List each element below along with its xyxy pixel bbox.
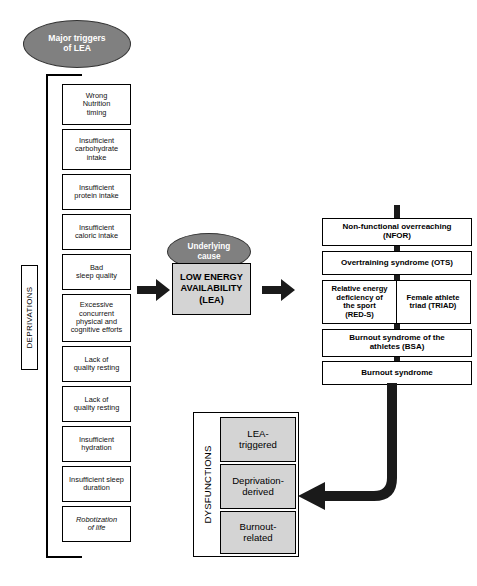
dysfunctions-group-label: DYSFUNCTIONS <box>196 415 218 554</box>
trigger-box-2: Insufficient carbohydrate intake <box>62 129 131 170</box>
low-energy-availability-box: LOW ENERGY AVAILABILITY (LEA) <box>172 263 251 315</box>
dysfunction-box-burnout: Burnout syndrome <box>322 361 472 385</box>
dysfunction-box-bsa: Burnout syndrome of the athletes (BSA) <box>322 329 472 357</box>
dysfunction-category-lea-triggered: LEA- triggered <box>220 417 296 462</box>
dysfunction-box-split-reds-triad: Relative energy deficiency of the sport … <box>322 280 472 324</box>
deprivations-group-label: DEPRIVATIONS <box>21 265 38 370</box>
trigger-box-11: Robotization of life <box>62 506 131 542</box>
trigger-box-4: Insufficient caloric intake <box>62 214 131 250</box>
trigger-box-3: Insufficient protein intake <box>62 174 131 210</box>
dysfunctions-label-text: DYSFUNCTIONS <box>202 445 213 523</box>
triggers-bracket-top <box>46 74 82 76</box>
trigger-box-5: Bad sleep quality <box>62 254 131 290</box>
diagram-canvas: Major triggers of LEA DEPRIVATIONS Wrong… <box>0 0 477 586</box>
dysfunction-box-ots: Overtraining syndrome (OTS) <box>322 251 472 275</box>
trigger-box-8: Lack of quality resting <box>62 386 131 422</box>
connector-stub-top <box>394 205 400 218</box>
arrow-lea-to-dysfunctions <box>262 277 296 303</box>
trigger-box-9: Insufficient hydration <box>62 426 131 462</box>
dysfunction-box-triad: Female athlete triad (TRIAD) <box>396 280 471 324</box>
trigger-box-1: Wrong Nutrition timing <box>62 84 131 125</box>
dysfunction-category-deprivation-derived: Deprivation- derived <box>220 464 296 509</box>
arrow-triggers-to-lea <box>137 277 171 303</box>
trigger-box-6: Excessive concurrent physical and cognit… <box>62 294 131 342</box>
dysfunction-box-reds: Relative energy deficiency of the sport … <box>322 280 397 324</box>
dysfunction-category-burnout-related: Burnout- related <box>220 511 296 554</box>
deprivations-label-text: DEPRIVATIONS <box>25 287 34 349</box>
dysfunction-box-nfor: Non-functional overreaching (NFOR) <box>322 218 472 246</box>
arrow-burnout-to-dysfunctions-group <box>290 383 420 523</box>
triggers-bracket-bottom <box>46 556 82 558</box>
triggers-bracket-vertical <box>46 74 48 558</box>
major-triggers-ellipse: Major triggers of LEA <box>23 20 131 68</box>
trigger-box-10: Insufficient sleep duration <box>62 466 131 502</box>
trigger-box-7: Lack of quality resting <box>62 346 131 382</box>
